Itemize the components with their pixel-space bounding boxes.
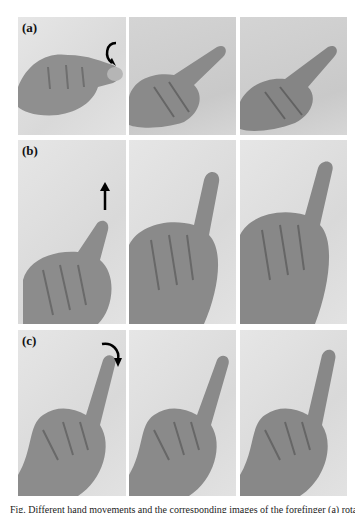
panel-b-3 <box>240 140 347 324</box>
rotate-arrow-icon <box>98 39 126 69</box>
figure-caption: Fig. Different hand movements and the co… <box>10 503 355 513</box>
hand-raised-finger-image <box>240 140 347 324</box>
panel-a-3 <box>240 17 347 135</box>
hand-bent-finger-image <box>129 330 236 496</box>
panel-a-1: (a) <box>18 17 126 135</box>
hand-pointing-image <box>129 17 236 135</box>
up-arrow-icon <box>99 182 111 212</box>
hand-raised-finger-image <box>18 140 126 324</box>
hand-pointing-image <box>240 17 347 135</box>
panel-b-2 <box>129 140 236 324</box>
panel-c-3 <box>240 330 347 496</box>
hand-fist-image <box>18 17 126 135</box>
hand-raised-finger-image <box>129 140 236 324</box>
curved-down-arrow-icon <box>100 340 124 370</box>
panel-b-1: (b) <box>18 140 126 324</box>
panel-a-2 <box>129 17 236 135</box>
hand-bent-finger-image <box>240 330 347 496</box>
panel-c-2 <box>129 330 236 496</box>
panel-c-1: (c) <box>18 330 126 496</box>
